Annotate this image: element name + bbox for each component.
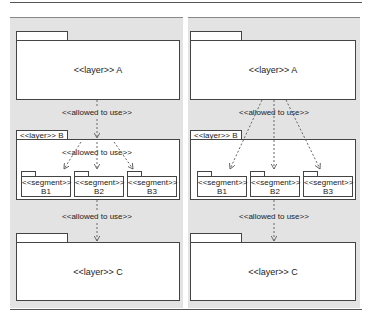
segment-b1-name: B1 [198,187,246,196]
layer-a-package: <<layer>> A [190,40,356,100]
segment-b2-stereotype: <<segment>> [251,177,299,187]
segment-b2: <<segment>> B2 [250,176,300,197]
inner-dependency-label: <<allowed to use>> [62,148,132,157]
segment-b2: <<segment>> B2 [74,176,124,197]
segment-b2-name: B2 [251,187,299,196]
dependency-a-b-label: <<allowed to use>> [62,108,132,117]
segment-b2-name: B2 [75,187,123,196]
segment-b3-name: B3 [304,187,352,196]
segment-b3: <<segment>> B3 [127,176,177,197]
bottom-rule [10,309,362,310]
segment-b3: <<segment>> B3 [303,176,353,197]
layer-c-label: <<layer>> C [248,267,298,277]
segment-b1-name: B1 [22,187,70,196]
segment-b3-name: B3 [128,187,176,196]
segment-b1-stereotype: <<segment>> [198,177,246,187]
layer-c-label: <<layer>> C [73,267,123,277]
segment-b3-stereotype: <<segment>> [128,177,176,187]
segment-b1-stereotype: <<segment>> [22,177,70,187]
dependency-a-b-label: <<allowed to use>> [239,108,309,117]
layer-a-package: <<layer>> A [16,40,180,100]
top-rule [10,2,362,3]
dependency-b-c-label: <<allowed to use>> [239,212,309,221]
layer-c-package: <<layer>> C [190,242,356,301]
segment-b2-stereotype: <<segment>> [75,177,123,187]
segment-b1: <<segment>> B1 [197,176,247,197]
dependency-b-c-label: <<allowed to use>> [62,212,132,221]
segment-b3-stereotype: <<segment>> [304,177,352,187]
layer-c-package: <<layer>> C [16,242,180,301]
layer-a-label: <<layer>> A [249,65,298,75]
layer-a-label: <<layer>> A [74,65,123,75]
segment-b1: <<segment>> B1 [21,176,71,197]
